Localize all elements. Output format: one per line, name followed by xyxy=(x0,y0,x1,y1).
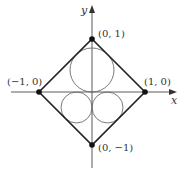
x-axis-label: x xyxy=(171,94,178,107)
vertex-top xyxy=(89,36,95,42)
vertex-left xyxy=(36,89,42,95)
vertex-bottom xyxy=(89,142,95,148)
y-axis-label: y xyxy=(80,4,88,17)
vertex-right xyxy=(142,89,148,95)
y-axis-arrow-icon xyxy=(89,5,95,13)
label-left: (−1, 0) xyxy=(7,76,42,87)
label-bottom: (0, −1) xyxy=(98,142,133,153)
label-right: (1, 0) xyxy=(144,76,171,87)
diamond-circles-diagram: x y (0, 1) (1, 0) (0, −1) (−1, 0) xyxy=(0,0,184,174)
label-top: (0, 1) xyxy=(98,28,125,39)
